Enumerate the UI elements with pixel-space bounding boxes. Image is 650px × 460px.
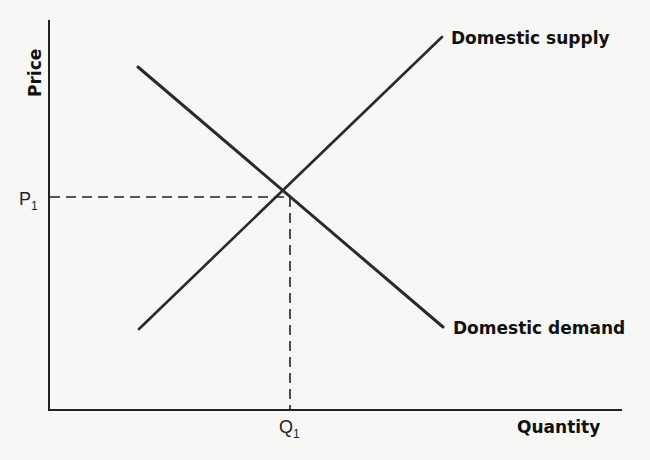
y-axis-title: Price: [25, 49, 45, 97]
x-axis-title: Quantity: [517, 417, 600, 437]
supply-label: Domestic supply: [451, 28, 610, 48]
p1-tick-label: P1: [19, 189, 38, 213]
supply-demand-chart: Domestic supply Domestic demand Quantity…: [0, 0, 650, 460]
q1-tick-label: Q1: [279, 417, 300, 441]
demand-label: Domestic demand: [453, 318, 625, 338]
